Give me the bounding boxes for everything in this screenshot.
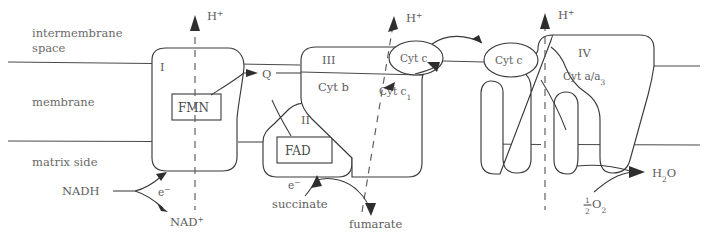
electron-label-complex1: e− [158, 185, 171, 199]
fumarate-arrowhead [365, 203, 376, 216]
proton-arrowhead-complex4 [540, 13, 550, 29]
cytochrome-c-right-label: Cyt c [495, 54, 523, 66]
complex1-to-q-arrowhead [246, 69, 258, 77]
complex1-to-q-group [244, 69, 258, 77]
proton-label-complex1: H+ [207, 9, 223, 24]
ubiquinone-group: Q [262, 67, 301, 81]
cytochrome-c-group: Cyt c Cyt c [389, 35, 538, 77]
fad-label: FAD [285, 144, 311, 158]
label-intermembrane-space-line1: intermembrane [32, 26, 123, 40]
proton-arrowhead-complex3 [388, 16, 398, 32]
complex-4-inner-lobe [554, 92, 578, 174]
region-labels: intermembrane space membrane matrix side [32, 26, 123, 169]
cytochrome-c-left-label: Cyt c [400, 52, 428, 64]
nadh-label: NADH [62, 184, 100, 198]
oxygen-molecule-label: O2 [592, 197, 606, 215]
fmn-label: FMN [178, 101, 209, 115]
lower-membrane-line-right [570, 145, 700, 146]
fumarate-label: fumarate [349, 217, 402, 231]
label-matrix-side: matrix side [32, 155, 98, 169]
proton-label-complex4: H+ [558, 8, 574, 23]
oxygen-to-water-arrow [594, 172, 632, 192]
nadh-to-nadplus-arrowhead [157, 203, 168, 212]
etc-diagram-canvas: intermembrane space membrane matrix side… [0, 0, 705, 233]
water-label: H2O [652, 166, 676, 184]
succinate-substrate-group: succinate fumarate e− [272, 175, 402, 231]
nadh-substrate-group: NADH NAD+ e− [62, 172, 204, 229]
lower-membrane-line-left [8, 141, 152, 142]
cytochrome-c-transfer-arrow [432, 36, 482, 44]
electron-label-complex2: e− [288, 178, 301, 192]
upper-membrane-line-left [8, 62, 152, 64]
complex-1-group: I FMN [152, 48, 244, 171]
nad-plus-label: NAD+ [170, 215, 204, 230]
electron-transport-chain-diagram: intermembrane space membrane matrix side… [0, 0, 705, 233]
proton-arrows: H+ H+ H+ [190, 8, 574, 33]
cytochrome-c-connector-line [443, 61, 484, 62]
complex-3-roman-label: III [322, 53, 336, 67]
complex-4-roman-label: IV [578, 46, 592, 60]
upper-membrane-line-mid1 [238, 64, 300, 65]
oxygen-water-group: 1 2 O2 H2O [577, 165, 676, 216]
half-oxygen-label-group: 1 2 O2 [584, 196, 606, 216]
cytochrome-c-transfer-arrowhead [472, 35, 482, 43]
succinate-label: succinate [272, 197, 328, 211]
label-membrane: membrane [32, 95, 95, 109]
proton-arrowhead-complex1 [190, 15, 200, 31]
label-intermembrane-space-line2: space [32, 41, 66, 55]
half-oxygen-denominator: 2 [585, 207, 590, 216]
water-arrowhead [629, 166, 645, 178]
proton-label-complex3: H+ [406, 11, 422, 26]
half-oxygen-label: 1 [585, 196, 590, 205]
cyt-b-label: Cyt b [318, 80, 349, 94]
complex-1-roman-label: I [160, 60, 165, 74]
ubiquinone-label: Q [262, 67, 271, 81]
